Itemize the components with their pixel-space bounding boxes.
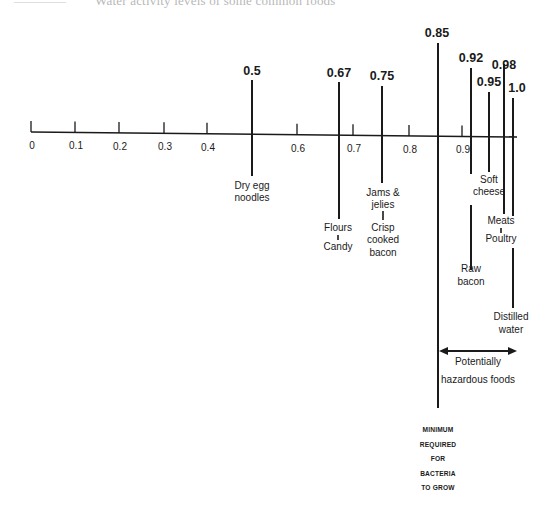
food-label: Jams & [366,187,400,198]
value-marker: 1.0Distilledwater [493,81,528,335]
arrow-right-icon [508,347,517,355]
arrow-left-icon [439,347,448,355]
axis-tick-label: 0.8 [403,144,417,155]
minimum-note-line: MINIMUM [422,426,453,433]
range-label: hazardous foods [441,374,515,385]
minimum-note-line: BACTERIA [420,470,456,477]
food-label: noodles [234,192,269,203]
marker-value-label: 1.0 [508,81,525,95]
axis-tick-label: 0.4 [201,142,215,153]
food-label: Dry egg [234,180,269,191]
marker-value-label: 0.67 [327,66,351,80]
axis-tick-label: 0 [29,140,35,151]
food-label: Raw [461,263,482,274]
axis-tick-label: 0.2 [113,141,127,152]
food-label: jelies [371,199,395,210]
food-label: Meats [487,215,514,226]
marker-value-label: 0.92 [459,51,483,65]
food-label: Soft [480,174,498,185]
food-label: Poultry [485,233,516,244]
axis-tick-label: 0.3 [158,141,172,152]
axis-tick-label: 0.1 [69,140,83,151]
figure-caption: Water activity levels of some common foo… [95,0,336,9]
axis-tick-label: 0.7 [347,143,361,154]
axis-tick-label: 0.9 [456,144,470,155]
minimum-note-line: FOR [431,455,446,462]
number-line-svg: 00.10.20.30.40.60.70.80.9 0.5Dry eggnood… [0,0,556,508]
food-label: Crisp [371,222,395,233]
potentially-hazardous-range: Potentiallyhazardous foods [439,347,517,385]
axis-line [31,132,517,137]
marker-value-label: 0.75 [370,69,394,83]
food-label: cheese [473,186,506,197]
food-label: Candy [324,241,353,252]
marker-value-label: 0.5 [243,64,260,78]
water-activity-diagram: ———— Water activity levels of some commo… [0,0,556,508]
food-label: bacon [457,276,484,287]
caption-fragment-left: ———— [14,0,66,9]
range-label: Potentially [455,356,501,367]
food-label: Distilled [493,311,528,322]
marker-value-label: 0.85 [425,26,449,40]
value-marker: 0.67FloursCandy [324,66,353,252]
minimum-note-line: REQUIRED [420,441,456,449]
food-label: Flours [324,222,352,233]
food-label: bacon [369,247,396,258]
water-activity-axis: 00.10.20.30.40.60.70.80.9 [29,121,517,155]
minimum-bacteria-note: MINIMUMREQUIREDFORBACTERIATO GROW [420,426,456,491]
value-marker: 0.75Jams &jeliesCrispcookedbacon [366,69,400,258]
food-label: cooked [367,234,399,245]
food-label: water [498,324,524,335]
axis-tick-label: 0.6 [291,143,305,154]
marker-value-label: 0.95 [477,75,501,89]
minimum-note-line: TO GROW [421,484,455,491]
